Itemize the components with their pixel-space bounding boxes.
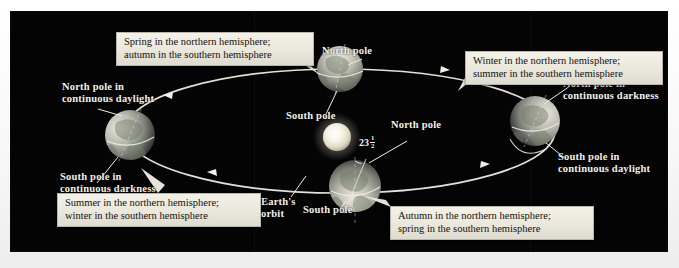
label-north-pole-top: North pole xyxy=(322,45,372,57)
callout-autumn: Autumn in the northern hemisphere; sprin… xyxy=(390,206,594,240)
figure-root: North pole South pole North pole in cont… xyxy=(0,0,679,268)
label-north-pole-bottom: North pole xyxy=(391,119,441,131)
tilt-fraction-denominator: 2 xyxy=(371,143,374,150)
callout-winter: Winter in the northern hemisphere; summe… xyxy=(465,51,663,85)
tilt-value: 23 xyxy=(359,138,369,148)
earth-summer xyxy=(105,109,155,162)
leader-north-pole-left xyxy=(98,109,122,116)
tilt-fraction: 1 2 xyxy=(370,135,375,150)
earth-winter xyxy=(510,95,560,153)
label-south-pole-bottom: South pole xyxy=(303,204,353,216)
label-earths-orbit: Earth's orbit xyxy=(261,196,296,221)
callout-spring: Spring in the northern hemisphere; autum… xyxy=(116,32,314,66)
tilt-angle-label: 23 1 2 xyxy=(359,135,375,150)
leader-earths-orbit xyxy=(291,176,306,197)
label-south-pole-top: South pole xyxy=(286,110,336,122)
callout-summer: Summer in the northern hemisphere; winte… xyxy=(57,193,261,227)
label-north-pole-daylight: North pole in continuous daylight xyxy=(62,81,154,106)
label-south-pole-daylight: South pole in continuous daylight xyxy=(558,151,650,176)
sky-panel: North pole South pole North pole in cont… xyxy=(10,11,668,252)
tilt-fraction-numerator: 1 xyxy=(371,135,374,142)
